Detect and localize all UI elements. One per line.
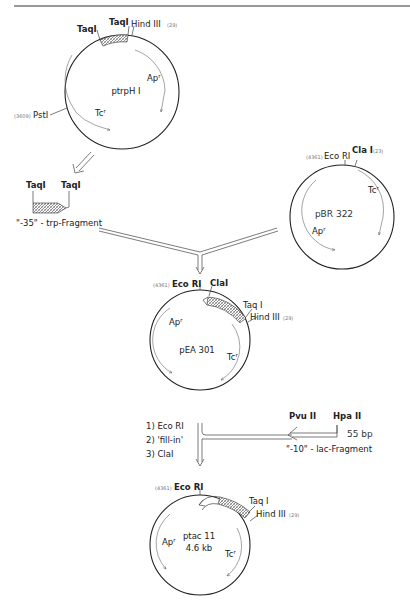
lac-left-site: Pvu II (289, 411, 316, 421)
ap-label: Apr (162, 537, 176, 547)
site-cla1: Cla I (352, 145, 373, 155)
site-ecor1-pos: (4361) (153, 282, 170, 288)
tc-label: Tcr (94, 108, 106, 118)
site-ecor1: Eco RI (174, 482, 203, 492)
site-cla1-pos: (23) (373, 148, 383, 154)
ap-label: Apr (169, 317, 183, 327)
plasmid-pEA301: (4361) Eco RI ClaI Taq I Hind III (29) p… (150, 278, 293, 390)
site-ecor1: Eco RI (324, 151, 350, 161)
lac-fragment-label: "-10" - lac-Fragment (286, 444, 373, 454)
trp-right-site: TaqI (61, 180, 81, 190)
tc-label: Tcr (226, 352, 238, 362)
site-hind3: Hind III (256, 509, 286, 519)
plasmid-name: pBR 322 (315, 209, 353, 219)
tc-gene-arrow (358, 170, 384, 235)
trp-insert-hatch (100, 35, 128, 46)
lac-size: 55 bp (347, 429, 373, 439)
trp-left-site: TaqI (26, 180, 46, 190)
site-ecor1: Eco RI (172, 279, 201, 289)
trp-insert-hatch (218, 497, 250, 518)
site-cla1: ClaI (210, 278, 228, 288)
plasmid-size: 4.6 kb (186, 543, 213, 553)
digest-steps: 1) Eco RI 2) 'fill-in' 3) ClaI (146, 421, 292, 466)
site-ecor1-pos: (4361) (155, 485, 172, 491)
site-taq1-left: TaqI (77, 24, 97, 34)
site-taq1-right: TaqI (109, 17, 129, 27)
tc-label: Tcr (224, 549, 236, 559)
plasmid-ptac11: (4361) Eco RI Taq I Hind III (29) ptac 1… (150, 482, 299, 595)
trp-fragment-label: "-35" - trp-Fragment (16, 218, 103, 228)
tc-label: Tcr (367, 185, 379, 195)
trp-fragment-hatch (33, 203, 66, 213)
plasmid-name: pEA 301 (179, 345, 215, 355)
site-hind3-pos: (29) (167, 22, 177, 28)
site-taq1: Taq I (242, 300, 263, 310)
site-pst1: PstI (33, 110, 48, 120)
plasmid-name: ptac 11 (183, 531, 215, 541)
cloning-diagram: TaqI TaqI Hind III (29) ptrpH I Apr Tcr … (0, 0, 410, 612)
plasmid-ptrpH1: TaqI TaqI Hind III (29) ptrpH I Apr Tcr … (14, 17, 179, 149)
site-hind3: Hind III (131, 19, 161, 29)
ap-label: Apr (312, 226, 326, 236)
lac-fragment: Pvu II Hpa II 55 bp "-10" - lac-Fragment (286, 411, 373, 454)
plasmid-pBR322: (4361) Eco RI Cla I (23) pBR 322 Apr Tcr (290, 145, 394, 269)
ap-label: Apr (147, 73, 161, 83)
plasmid-name: ptrpH I (111, 86, 140, 96)
ligation-junction (99, 228, 278, 274)
step-2: 2) 'fill-in' (146, 435, 183, 445)
site-hind3: Hind III (250, 312, 280, 322)
site-hind3-pos: (29) (283, 315, 293, 321)
step-3: 3) ClaI (146, 449, 173, 459)
step-1: 1) Eco RI (146, 421, 184, 431)
site-pst1-pos: (3609) (14, 113, 31, 119)
site-taq1: Taq I (248, 496, 269, 506)
site-hind3-pos: (29) (289, 512, 299, 518)
site-ecor1-pos: (4361) (306, 154, 323, 160)
lac-right-site: Hpa II (333, 411, 361, 421)
trp-fragment: TaqI TaqI "-35" - trp-Fragment (16, 180, 103, 228)
arrow-to-trp-fragment (73, 152, 94, 173)
